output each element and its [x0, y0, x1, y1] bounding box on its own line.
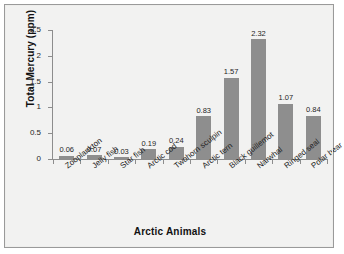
- y-tick-mark: [48, 107, 52, 108]
- y-tick-mark: [48, 133, 52, 134]
- bar-value-label: 1.57: [217, 68, 245, 76]
- bar-value-label: 0.24: [162, 137, 190, 145]
- y-tick-label: 2.5: [5, 26, 48, 34]
- bar-value-label: 0.83: [190, 107, 218, 115]
- y-tick-label: 0: [5, 155, 48, 163]
- chart-frame: Total Mercury (ppm) Arctic Animals 00.51…: [4, 4, 334, 248]
- y-tick-label: 2: [5, 52, 48, 60]
- y-tick-mark: [48, 82, 52, 83]
- y-tick-mark: [48, 56, 52, 57]
- bar-value-label: 1.07: [272, 94, 300, 102]
- bar-value-label: 0.84: [299, 106, 327, 114]
- y-tick-mark: [48, 30, 52, 31]
- x-tick-mark: [53, 160, 54, 164]
- x-axis-title: Arctic Animals: [5, 226, 335, 237]
- y-tick-label: 1.5: [5, 78, 48, 86]
- y-tick-label: 1: [5, 103, 48, 111]
- bar-value-label: 2.32: [245, 30, 273, 38]
- y-tick-label: 0.5: [5, 129, 48, 137]
- y-tick-mark: [48, 159, 52, 160]
